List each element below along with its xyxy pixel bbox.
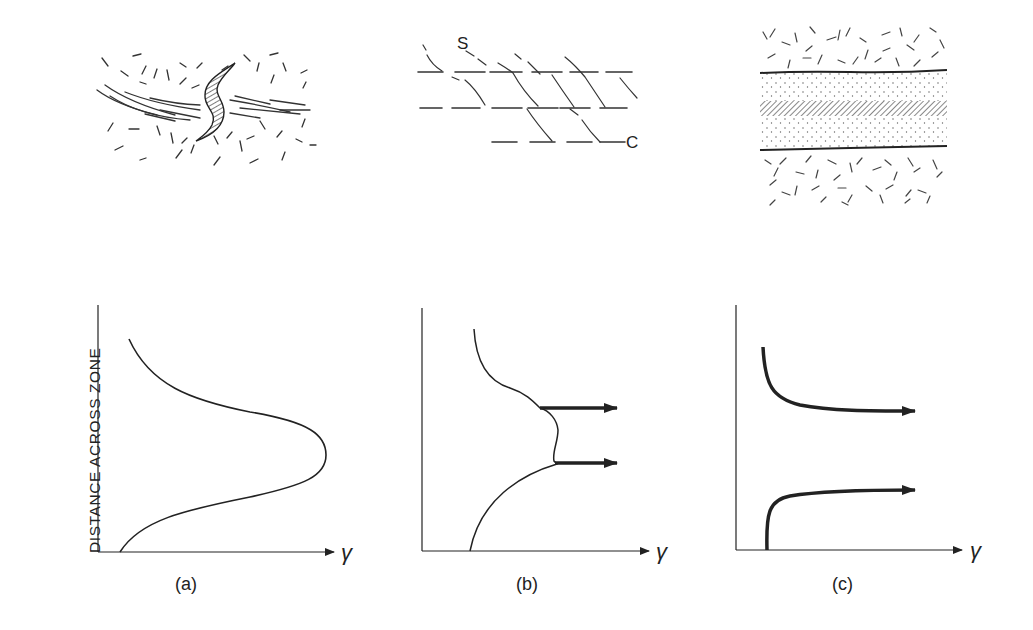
figure-canvas: S C DISTANCE ACROSS ZONE γ (a) γ (b): [0, 0, 1033, 630]
hatched-band: [760, 101, 947, 116]
x-axis-symbol: γ: [970, 538, 983, 563]
caption-c: (c): [832, 574, 853, 594]
y-axis-label: DISTANCE ACROSS ZONE: [86, 348, 103, 554]
x-axis-symbol: γ: [341, 540, 354, 565]
lower-strain-curve: [767, 490, 915, 550]
upper-strain-curve: [763, 347, 915, 411]
plot-a: γ (a): [98, 305, 354, 594]
label-c: C: [626, 133, 638, 152]
caption-a: (a): [175, 574, 197, 594]
plot-b: γ (b): [422, 308, 669, 594]
c-planes: [418, 72, 632, 142]
upper-margin: [760, 70, 947, 73]
plot-c: γ (c): [736, 305, 983, 594]
x-axis-symbol: γ: [656, 539, 669, 564]
label-s: S: [457, 34, 468, 53]
dotted-band-upper: [760, 73, 947, 101]
panel-c-sketch: [760, 27, 947, 205]
strain-profile-curve: [120, 339, 326, 552]
dotted-band-lower: [760, 116, 947, 149]
s-surfaces: [423, 45, 637, 142]
strain-profile-curve: [470, 329, 558, 551]
panel-a-sketch: [97, 53, 316, 165]
foliation-lines: [97, 85, 310, 121]
panel-b-sketch: S C: [418, 34, 638, 152]
sigmoidal-clast: [196, 63, 235, 141]
caption-b: (b): [516, 574, 538, 594]
